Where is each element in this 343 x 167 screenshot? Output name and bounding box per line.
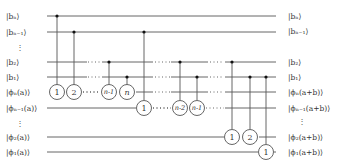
gates: 1 2 n-1 n 1 n-2 n-1 1 2 1 — [50, 85, 274, 160]
output-label: |ϕₙ₋₁(a+b)⟩ — [288, 104, 330, 113]
svg-text:2: 2 — [247, 133, 252, 142]
control-dot — [178, 60, 181, 63]
input-label: |b₂⟩ — [6, 58, 19, 67]
rotation-gate: 2 — [67, 85, 82, 100]
svg-text:n-1: n-1 — [104, 88, 115, 96]
svg-text:n-1: n-1 — [192, 104, 203, 112]
rotation-gate: 1 — [225, 130, 240, 145]
output-label: |ϕₙ(a+b)⟩ — [288, 88, 323, 97]
control-dot — [125, 75, 128, 78]
control-lines — [57, 16, 266, 144]
rotation-gate: n-1 — [102, 85, 117, 100]
vertical-ellipsis: ⋮ — [16, 119, 24, 128]
rotation-gate: 1 — [50, 85, 65, 100]
input-labels: |bₙ⟩ |bₙ₋₁⟩ ⋮ |b₂⟩ |b₁⟩ |ϕₙ(a)⟩ |ϕₙ₋₁(a)… — [6, 12, 37, 157]
output-label: |b₂⟩ — [288, 58, 301, 67]
output-label: |bₙ₋₁⟩ — [288, 27, 309, 36]
svg-text:1: 1 — [54, 88, 59, 97]
output-label: |ϕ₂(a+b)⟩ — [288, 133, 323, 142]
control-dot — [264, 75, 267, 78]
wires — [47, 16, 276, 152]
control-dot — [55, 14, 58, 17]
control-dot — [195, 75, 198, 78]
input-label: |bₙ⟩ — [6, 12, 20, 21]
rotation-gate: 1 — [259, 145, 274, 160]
svg-text:n-2: n-2 — [175, 104, 186, 112]
rotation-gate: n-2 — [173, 101, 188, 116]
rotation-gate: n — [120, 85, 135, 100]
control-dot — [142, 30, 145, 33]
input-label: |bₙ₋₁⟩ — [6, 28, 27, 37]
svg-text:1: 1 — [229, 133, 234, 142]
output-labels: |bₙ⟩ |bₙ₋₁⟩ |b₂⟩ |b₁⟩ |ϕₙ(a+b)⟩ |ϕₙ₋₁(a+… — [288, 12, 330, 157]
svg-text:1: 1 — [141, 104, 146, 113]
input-label: |ϕ₁(a)⟩ — [6, 148, 30, 157]
rotation-gate: 2 — [243, 130, 258, 145]
output-label: |b₁⟩ — [288, 73, 301, 82]
vertical-ellipsis: ⋮ — [16, 43, 24, 52]
input-label: |ϕ₂(a)⟩ — [6, 133, 30, 142]
input-label: |b₁⟩ — [6, 73, 19, 82]
control-dot — [72, 30, 75, 33]
output-label: |ϕ₁(a+b)⟩ — [288, 148, 323, 157]
svg-text:n: n — [124, 88, 129, 97]
vertical-ellipsis: ⋮ — [298, 117, 306, 126]
svg-text:1: 1 — [263, 148, 268, 157]
svg-text:2: 2 — [71, 88, 76, 97]
input-label: |ϕₙ₋₁(a)⟩ — [6, 104, 37, 113]
control-dot — [248, 75, 251, 78]
control-dot — [107, 60, 110, 63]
input-label: |ϕₙ(a)⟩ — [6, 88, 30, 97]
rotation-gate: n-1 — [190, 101, 205, 116]
output-label: |bₙ⟩ — [288, 12, 302, 21]
control-dot — [230, 60, 233, 63]
control-dots — [55, 14, 267, 78]
rotation-gate: 1 — [137, 101, 152, 116]
circuit-diagram: 1 2 n-1 n 1 n-2 n-1 1 2 1 |bₙ⟩ |bₙ₋₁⟩ ⋮ … — [0, 0, 343, 167]
